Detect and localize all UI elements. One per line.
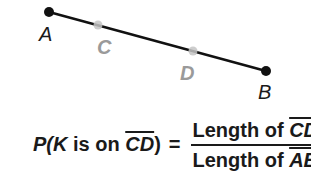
equals-sign: = — [169, 133, 181, 156]
denominator-segment: AB — [289, 149, 311, 171]
probability-formula: P(K is on CD) = Length of CD Length of A… — [33, 119, 311, 171]
numerator: Length of CD — [191, 119, 312, 141]
label-a: A — [39, 24, 52, 44]
numerator-segment: CD — [289, 119, 311, 141]
label-c: C — [97, 37, 111, 57]
fraction-bar — [191, 144, 312, 146]
point-c-icon — [94, 21, 103, 30]
close-paren: ) — [154, 133, 161, 155]
denominator: Length of AB — [191, 149, 312, 171]
p-function: P( — [33, 133, 53, 155]
segment-cd: CD — [125, 133, 154, 155]
point-b-icon — [261, 66, 271, 76]
label-b: B — [258, 82, 271, 102]
denominator-text: Length of — [193, 149, 290, 171]
numerator-text: Length of — [193, 119, 290, 141]
k-variable: K — [53, 133, 67, 155]
segment-ab — [49, 12, 266, 71]
point-a-icon — [44, 7, 54, 17]
is-on-text: is on — [67, 133, 125, 155]
formula-lhs: P(K is on CD) — [33, 133, 161, 156]
fraction: Length of CD Length of AB — [191, 119, 312, 171]
point-d-icon — [189, 47, 198, 56]
label-d: D — [180, 63, 194, 83]
